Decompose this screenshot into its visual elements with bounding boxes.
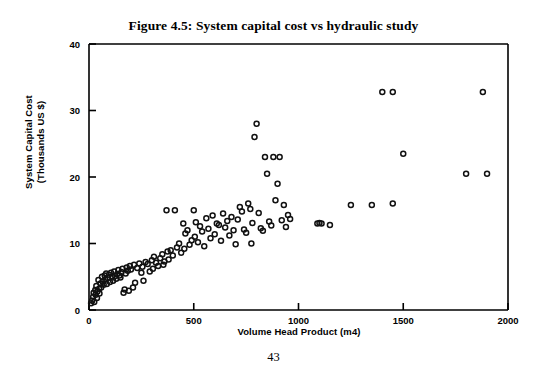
x-axis-title: Volume Head Product (m4) bbox=[89, 326, 509, 337]
data-point bbox=[166, 257, 171, 262]
data-point bbox=[275, 181, 280, 186]
data-point bbox=[283, 224, 288, 229]
data-point bbox=[256, 210, 261, 215]
y-axis-ticks bbox=[89, 44, 96, 310]
figure-container: Figure 4.5: System capital cost vs hydra… bbox=[0, 0, 547, 376]
data-point bbox=[204, 216, 209, 221]
data-point bbox=[246, 201, 251, 206]
data-point bbox=[229, 214, 234, 219]
data-point bbox=[208, 236, 213, 241]
x-axis-ticks bbox=[89, 303, 508, 310]
page-number: 43 bbox=[0, 350, 547, 365]
data-point bbox=[202, 244, 207, 249]
data-point bbox=[480, 89, 485, 94]
y-axis-title-line1: System Capital Cost bbox=[23, 72, 35, 212]
data-point bbox=[193, 220, 198, 225]
data-point bbox=[170, 253, 175, 258]
data-point bbox=[191, 208, 196, 213]
y-tick-label: 40 bbox=[69, 39, 80, 50]
data-point bbox=[172, 208, 177, 213]
data-point bbox=[181, 221, 186, 226]
data-point bbox=[218, 238, 223, 243]
data-point bbox=[133, 280, 138, 285]
data-point bbox=[327, 222, 332, 227]
data-point bbox=[221, 211, 226, 216]
data-point bbox=[227, 233, 232, 238]
data-point bbox=[177, 241, 182, 246]
data-point bbox=[269, 223, 274, 228]
data-point bbox=[281, 202, 286, 207]
x-tick-label: 1500 bbox=[393, 315, 414, 326]
data-point bbox=[252, 135, 257, 140]
data-point bbox=[401, 151, 406, 156]
data-point bbox=[265, 171, 270, 176]
data-point bbox=[235, 217, 240, 222]
data-point bbox=[206, 226, 211, 231]
data-point bbox=[210, 213, 215, 218]
x-tick-label: 2000 bbox=[497, 315, 518, 326]
data-point bbox=[223, 225, 228, 230]
data-point bbox=[485, 171, 490, 176]
data-point bbox=[244, 230, 249, 235]
data-point bbox=[254, 121, 259, 126]
y-tick-label: 30 bbox=[69, 105, 80, 116]
data-point bbox=[262, 155, 267, 160]
y-axis-title-line2: (Thousands US $) bbox=[35, 72, 47, 212]
x-axis-tick-labels: 0500100015002000 bbox=[86, 315, 518, 326]
y-tick-label: 10 bbox=[69, 238, 80, 249]
data-point bbox=[200, 229, 205, 234]
data-point bbox=[141, 278, 146, 283]
data-point bbox=[239, 209, 244, 214]
data-point bbox=[277, 155, 282, 160]
data-point bbox=[369, 202, 374, 207]
data-point bbox=[390, 89, 395, 94]
data-point bbox=[164, 208, 169, 213]
data-point bbox=[380, 89, 385, 94]
data-point bbox=[260, 228, 265, 233]
data-point bbox=[168, 248, 173, 253]
data-point bbox=[160, 252, 165, 257]
y-tick-label: 0 bbox=[75, 305, 80, 316]
data-point bbox=[212, 232, 217, 237]
data-point bbox=[250, 220, 255, 225]
data-point bbox=[195, 240, 200, 245]
data-point bbox=[198, 224, 203, 229]
y-axis-title: System Capital Cost (Thousands US $) bbox=[23, 72, 47, 212]
data-point bbox=[233, 242, 238, 247]
data-point bbox=[464, 171, 469, 176]
data-point bbox=[273, 198, 278, 203]
data-point bbox=[185, 228, 190, 233]
data-point bbox=[271, 155, 276, 160]
data-point bbox=[151, 254, 156, 259]
scatter-plot: 010203040 0500100015002000 bbox=[0, 0, 547, 376]
data-point bbox=[288, 216, 293, 221]
x-tick-label: 0 bbox=[86, 315, 91, 326]
data-point bbox=[248, 206, 253, 211]
x-tick-label: 1000 bbox=[288, 315, 309, 326]
data-point bbox=[139, 270, 144, 275]
data-point bbox=[231, 228, 236, 233]
data-point bbox=[182, 246, 187, 251]
data-point bbox=[249, 241, 254, 246]
data-point bbox=[225, 218, 230, 223]
data-point bbox=[279, 218, 284, 223]
y-axis-tick-labels: 010203040 bbox=[69, 39, 80, 316]
y-tick-label: 20 bbox=[69, 172, 80, 183]
data-point bbox=[192, 234, 197, 239]
data-point bbox=[348, 202, 353, 207]
data-point-markers bbox=[89, 89, 490, 305]
data-point bbox=[156, 264, 161, 269]
data-point bbox=[150, 266, 155, 271]
x-tick-label: 500 bbox=[186, 315, 202, 326]
data-point bbox=[390, 201, 395, 206]
